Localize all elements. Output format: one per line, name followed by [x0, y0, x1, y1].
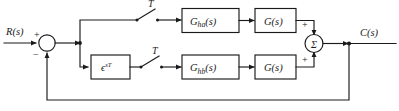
upper-branch-wire [80, 20, 137, 43]
block-diagram-canvas: R(s) + − T T ϵsT Gha(s) G(s) Ghb(s) G(s) [0, 0, 399, 111]
sigma-bottom-plus-sign: + [302, 54, 308, 65]
plant-b-block-label: G(s) [264, 62, 283, 74]
sampler-lower[interactable] [140, 56, 164, 69]
upper-branch-wires [80, 20, 137, 43]
lower-branch-wire [80, 43, 88, 67]
sampler-upper-blade [137, 9, 155, 20]
sampler-lower-label: T [152, 45, 159, 56]
error-summing-junction [39, 35, 55, 51]
sampler-upper-label: T [148, 0, 155, 9]
input-signal-label: R(s) [5, 26, 24, 38]
block-diagram-svg: R(s) + − T T ϵsT Gha(s) G(s) Ghb(s) G(s) [0, 0, 399, 111]
error-junction-plus-sign: + [34, 29, 40, 40]
sampler-lower-blade [141, 56, 159, 67]
sigma-top-plus-sign: + [302, 19, 308, 30]
lower-branch-wires [80, 43, 88, 67]
sampler-upper[interactable] [136, 9, 160, 22]
plant-a-block-label: G(s) [264, 16, 283, 28]
sigma-symbol: Σ [310, 39, 317, 50]
output-signal-label: C(s) [360, 27, 379, 39]
error-junction-minus-sign: − [33, 49, 39, 60]
